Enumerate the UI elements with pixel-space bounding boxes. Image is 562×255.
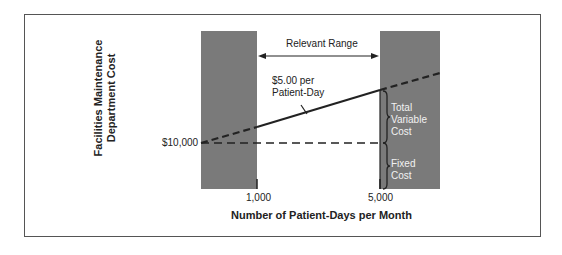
relevant-range-label: Relevant Range bbox=[286, 38, 358, 49]
left-band bbox=[201, 31, 257, 189]
rate-annotation: $5.00 per Patient-Day bbox=[272, 75, 324, 99]
x-tick-1000: 1,000 bbox=[246, 192, 271, 203]
y-axis-label: Facilities Maintenance Department Cost bbox=[92, 33, 118, 163]
arrow-right-icon bbox=[371, 53, 379, 59]
x-tick-5000: 5,000 bbox=[368, 192, 393, 203]
arrow-left-icon bbox=[258, 53, 266, 59]
fixed-cost-label: Fixed Cost bbox=[391, 158, 415, 182]
x-axis-label: Number of Patient-Days per Month bbox=[231, 209, 412, 221]
total-variable-cost-label: Total Variable Cost bbox=[391, 102, 427, 138]
y-tick-label: $10,000 bbox=[162, 137, 198, 148]
